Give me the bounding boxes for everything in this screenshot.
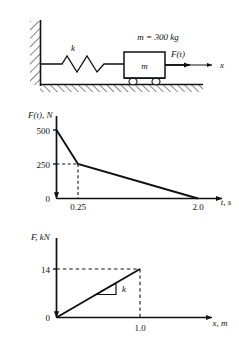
- force-label: F(t): [170, 49, 185, 59]
- mass-value-label: m = 300 kg: [137, 32, 179, 42]
- fixed-wall: [30, 20, 41, 86]
- ground-fill: [40, 85, 203, 92]
- x-axis-label: x: [219, 60, 224, 70]
- ft-xtick-label-20: 2.0: [192, 202, 204, 212]
- fx-x-axis-label: x, m: [212, 318, 228, 328]
- figure-root: k m m = 300 kg F(t) x: [0, 0, 239, 354]
- ft-xtick-label-025: 0.25: [70, 202, 86, 212]
- ft-ytick-label-250: 250: [37, 160, 51, 170]
- ft-ytick-label-0: 0: [46, 194, 51, 204]
- ft-x-axis-label: t, s: [221, 197, 232, 207]
- wall-hatching: [30, 21, 40, 85]
- fx-ytick-label-0: 0: [46, 313, 51, 323]
- mass-label: m: [141, 61, 148, 71]
- ft-y-axis-label: F(t), N: [27, 110, 53, 120]
- fx-xtick-label-10: 1.0: [134, 323, 146, 333]
- ground-hatching: [40, 85, 203, 93]
- figure-svg: k m m = 300 kg F(t) x: [0, 0, 239, 354]
- wheel-left: [129, 78, 137, 84]
- ft-ytick-label-500: 500: [37, 126, 51, 136]
- wheel-right: [152, 78, 160, 84]
- fx-y-axis-label: F, kN: [30, 232, 51, 242]
- fx-ytick-label-14: 14: [41, 265, 51, 275]
